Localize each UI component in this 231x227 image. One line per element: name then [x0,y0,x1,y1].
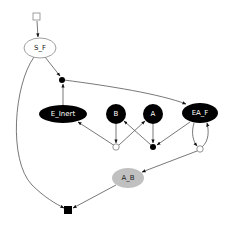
node-s-f[interactable]: S_F [24,38,56,58]
node-start[interactable] [33,13,40,20]
a-label: A [151,110,156,118]
node-e-inert[interactable]: E_Inert [39,105,87,123]
edge-split2-eaf [202,123,208,147]
edge-sf-end [16,57,64,208]
edge-split1-a [119,121,145,145]
ea-f-label: EA_F [192,109,209,117]
e-inert-label: E_Inert [51,110,76,118]
node-split1[interactable] [113,144,119,150]
node-join1[interactable] [59,77,65,83]
node-a-b[interactable]: A_B [112,168,144,188]
s-f-label: S_F [34,44,46,52]
edge-start-sf [37,21,38,37]
node-split2[interactable] [197,146,203,152]
start-square [33,13,40,20]
node-a[interactable]: A [143,104,163,124]
reaction-graph: S_F E_Inert B A EA_F A_B [0,0,231,227]
edge-eaf-join2 [157,122,190,145]
edge-join2-b [124,121,151,145]
b-label: B [114,110,119,118]
node-join2[interactable] [150,144,156,150]
edge-join1-eaf [64,80,186,104]
edge-split2-ab [142,151,197,172]
node-ea-f[interactable]: EA_F [182,103,218,123]
edge-eaf-split2 [193,123,197,146]
edge-sf-join1 [45,57,60,76]
node-end[interactable] [64,206,72,214]
edge-split1-einert [78,122,115,146]
node-b[interactable]: B [106,104,126,124]
a-b-label: A_B [121,174,134,182]
edge-ab-end [73,185,116,208]
